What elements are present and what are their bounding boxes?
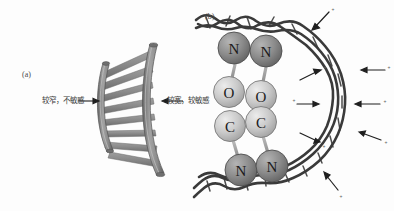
svg-text:+: + bbox=[384, 98, 387, 104]
svg-text:+: + bbox=[388, 64, 391, 70]
svg-text:+: + bbox=[293, 97, 296, 103]
panel-b-graphic: N N O O C C N N bbox=[0, 0, 394, 211]
atom-label: N bbox=[236, 163, 247, 179]
svg-text:+: + bbox=[324, 64, 327, 70]
panel-a-right-label: 较宽，较敏感 bbox=[167, 97, 209, 105]
atom-label: O bbox=[256, 89, 267, 105]
atom-c-right: C bbox=[246, 107, 277, 138]
svg-text:+: + bbox=[332, 6, 335, 12]
panel-a-left-label: 较窄，不敏感 bbox=[42, 97, 84, 105]
svg-text:+: + bbox=[340, 193, 343, 199]
svg-text:+: + bbox=[323, 143, 326, 149]
panel-b-arrows bbox=[297, 12, 385, 190]
atom-n-top-right: N bbox=[250, 35, 282, 67]
atom-n-bottom-left: N bbox=[225, 154, 257, 186]
svg-text:+: + bbox=[385, 139, 388, 145]
atom-n-bottom-right: N bbox=[256, 150, 288, 182]
panel-b-tag: (b) bbox=[205, 12, 214, 21]
panel-a-tag: (a) bbox=[22, 70, 31, 79]
figure-canvas: N N O O C C N N bbox=[0, 0, 394, 211]
atom-label: N bbox=[261, 44, 272, 60]
atom-c-left: C bbox=[215, 111, 246, 142]
atom-o-left: O bbox=[214, 77, 245, 108]
atom-n-top-left: N bbox=[218, 32, 250, 64]
atom-label: N bbox=[229, 41, 240, 57]
atom-label: C bbox=[256, 115, 266, 131]
atom-label: N bbox=[267, 159, 278, 175]
atom-label: O bbox=[224, 85, 235, 101]
atom-label: C bbox=[225, 119, 235, 135]
